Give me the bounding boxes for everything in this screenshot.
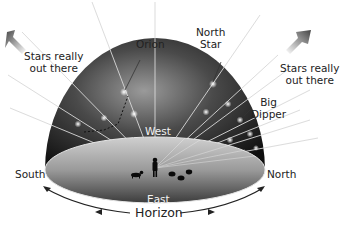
north-label: North xyxy=(267,168,296,180)
big-dipper-line1: Big xyxy=(251,96,286,108)
north-star-line1: North xyxy=(196,26,225,38)
stars-right-line2: out there xyxy=(280,74,339,86)
stars-left-label: Stars really out there xyxy=(24,50,83,74)
arrow-up-left-icon xyxy=(5,30,26,54)
north-star-line2: Star xyxy=(196,38,225,50)
orion-label: Orion xyxy=(136,38,165,50)
stars-right-line1: Stars really xyxy=(280,62,339,74)
horizon-label: Horizon xyxy=(135,207,183,219)
big-dipper-label: Big Dipper xyxy=(251,96,286,120)
stars-right-label: Stars really out there xyxy=(280,62,339,86)
celestial-sphere-diagram: Stars really out there Orion North Star … xyxy=(0,0,341,230)
stars-left-line2: out there xyxy=(24,62,83,74)
north-star-label: North Star xyxy=(196,26,225,50)
big-dipper-line2: Dipper xyxy=(251,108,286,120)
east-label: East xyxy=(147,193,170,205)
west-label: West xyxy=(145,125,171,137)
south-label: South xyxy=(15,168,46,180)
stars-left-line1: Stars really xyxy=(24,50,83,62)
arrow-up-right-icon xyxy=(286,30,311,54)
diagram-canvas xyxy=(0,0,341,230)
